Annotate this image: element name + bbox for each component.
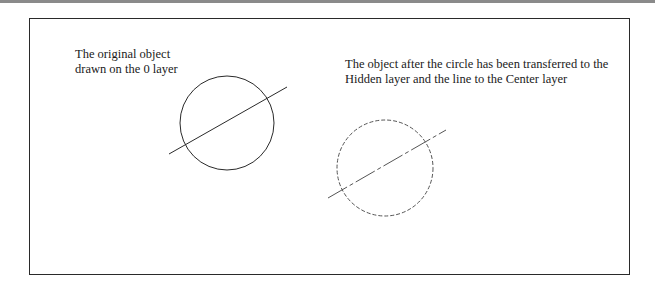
continuous-circle — [180, 76, 274, 170]
original-object — [169, 76, 287, 170]
drawing-canvas — [0, 0, 662, 290]
transferred-object — [328, 120, 446, 216]
hidden-layer-circle — [337, 120, 433, 216]
